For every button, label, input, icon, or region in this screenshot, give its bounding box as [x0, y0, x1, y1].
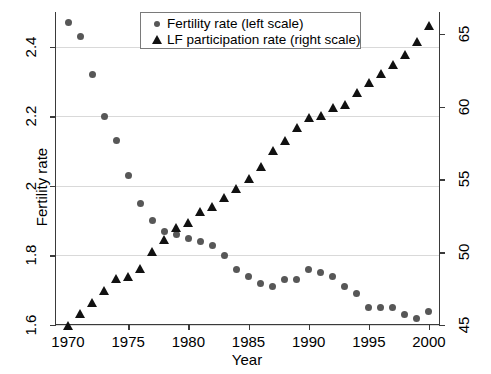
x-axis-tick — [128, 324, 129, 330]
data-point — [65, 19, 72, 26]
x-axis-tick — [429, 324, 430, 330]
legend-label-lf-participation-rate: LF participation rate (right scale) — [165, 32, 361, 47]
data-point — [111, 274, 121, 283]
y-axis-left-tick-label: 1.6 — [22, 308, 39, 342]
data-point — [149, 217, 156, 224]
data-point — [400, 50, 410, 59]
data-point — [257, 280, 264, 287]
data-point — [125, 172, 132, 179]
data-point — [183, 218, 193, 227]
data-point — [376, 69, 386, 78]
data-point — [101, 113, 108, 120]
y-axis-left-tick — [50, 47, 56, 48]
data-point — [352, 88, 362, 97]
x-axis-tick — [309, 324, 310, 330]
data-point — [425, 308, 432, 315]
data-point — [269, 283, 276, 290]
y-axis-left-tick — [50, 116, 56, 117]
data-point — [317, 269, 324, 276]
data-point — [99, 286, 109, 295]
y-axis-left-tick-label: 2.4 — [22, 30, 39, 64]
gridline — [56, 116, 439, 117]
y-axis-right-tick — [439, 34, 445, 35]
gridline — [56, 186, 439, 187]
x-axis-tick-label: 1990 — [292, 333, 325, 350]
x-axis-tick-label: 1985 — [232, 333, 265, 350]
x-axis-tick — [249, 324, 250, 330]
data-point — [412, 37, 422, 46]
y-axis-right-tick-label: 50 — [455, 237, 472, 267]
data-point — [219, 193, 229, 202]
data-point — [195, 207, 205, 216]
x-axis-tick-label: 1975 — [112, 333, 145, 350]
data-point — [209, 242, 216, 249]
x-axis-tick-label: 1970 — [51, 333, 84, 350]
data-point — [244, 174, 254, 183]
data-point — [401, 311, 408, 318]
data-point — [316, 111, 326, 120]
y-axis-right-tick — [439, 252, 445, 253]
y-axis-left-tick — [50, 255, 56, 256]
data-point — [159, 235, 169, 244]
y-axis-right-tick-label: 65 — [455, 19, 472, 49]
data-point — [63, 321, 73, 330]
data-point — [147, 247, 157, 256]
data-point — [256, 162, 266, 171]
x-axis-tick-label: 2000 — [412, 333, 445, 350]
chart-figure: Fertility rate Female LF participation r… — [0, 0, 491, 374]
data-point — [281, 276, 288, 283]
data-point — [135, 264, 145, 273]
data-point — [123, 272, 133, 281]
legend-item-fertility-rate: Fertility rate (left scale) — [149, 16, 360, 31]
data-point — [171, 223, 181, 232]
data-point — [329, 273, 336, 280]
data-point — [77, 33, 84, 40]
data-point — [113, 137, 120, 144]
y-axis-right-tick — [439, 179, 445, 180]
data-point — [365, 304, 372, 311]
y-axis-left-tick-label: 2 — [22, 169, 39, 203]
plot-area: 1.61.822.22.4 4550556065 197019751980198… — [55, 12, 440, 325]
data-point — [280, 136, 290, 145]
data-point — [341, 283, 348, 290]
data-point — [207, 202, 217, 211]
y-axis-right-tick-label: 45 — [455, 310, 472, 340]
chart-legend: Fertility rate (left scale) LF participa… — [140, 12, 361, 49]
data-point — [340, 100, 350, 109]
data-point — [292, 123, 302, 132]
x-axis-tick — [188, 324, 189, 330]
data-point — [89, 71, 96, 78]
data-point — [353, 290, 360, 297]
data-point — [75, 309, 85, 318]
y-axis-right-tick-label: 60 — [455, 92, 472, 122]
data-point — [305, 266, 312, 273]
y-axis-right-tick — [439, 107, 445, 108]
data-point — [245, 273, 252, 280]
data-point — [161, 228, 168, 235]
data-point — [137, 200, 144, 207]
circle-marker-icon — [149, 21, 165, 27]
data-point — [185, 235, 192, 242]
y-axis-left-tick-label: 2.2 — [22, 99, 39, 133]
y-axis-right-tick — [439, 325, 445, 326]
data-point — [377, 304, 384, 311]
y-axis-left-tick-label: 1.8 — [22, 238, 39, 272]
data-point — [197, 238, 204, 245]
data-point — [413, 315, 420, 322]
data-point — [304, 113, 314, 122]
data-point — [328, 103, 338, 112]
y-axis-left-tick — [50, 186, 56, 187]
x-axis-tick-label: 1995 — [352, 333, 385, 350]
legend-item-lf-participation-rate: LF participation rate (right scale) — [149, 32, 360, 47]
data-point — [231, 184, 241, 193]
data-point — [268, 146, 278, 155]
gridline — [56, 255, 439, 256]
gridline — [56, 325, 439, 326]
data-point — [364, 78, 374, 87]
data-point — [87, 298, 97, 307]
y-axis-right-tick-label: 55 — [455, 164, 472, 194]
data-point — [233, 266, 240, 273]
data-point — [221, 252, 228, 259]
y-axis-left-tick — [50, 325, 56, 326]
x-axis-title: Year — [232, 351, 262, 368]
